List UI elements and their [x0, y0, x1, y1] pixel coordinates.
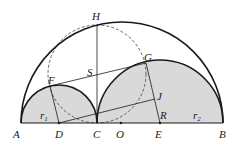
point-O-dot — [120, 122, 122, 124]
small-semicircle-fill — [21, 85, 97, 123]
label-R: R — [159, 109, 167, 121]
label-A: A — [12, 128, 20, 140]
label-B: B — [219, 128, 226, 140]
label-S: S — [87, 66, 93, 78]
label-E: E — [154, 128, 162, 140]
label-G: G — [144, 51, 152, 63]
label-O: O — [116, 128, 124, 140]
label-D: D — [54, 128, 63, 140]
label-H: H — [91, 10, 101, 22]
label-C: C — [93, 128, 101, 140]
point-D-dot — [58, 122, 60, 124]
point-E-dot — [159, 122, 161, 124]
label-F: F — [47, 74, 55, 86]
arbelos-diagram: A D C O E B H G S F J R r1 r2 — [0, 0, 242, 147]
